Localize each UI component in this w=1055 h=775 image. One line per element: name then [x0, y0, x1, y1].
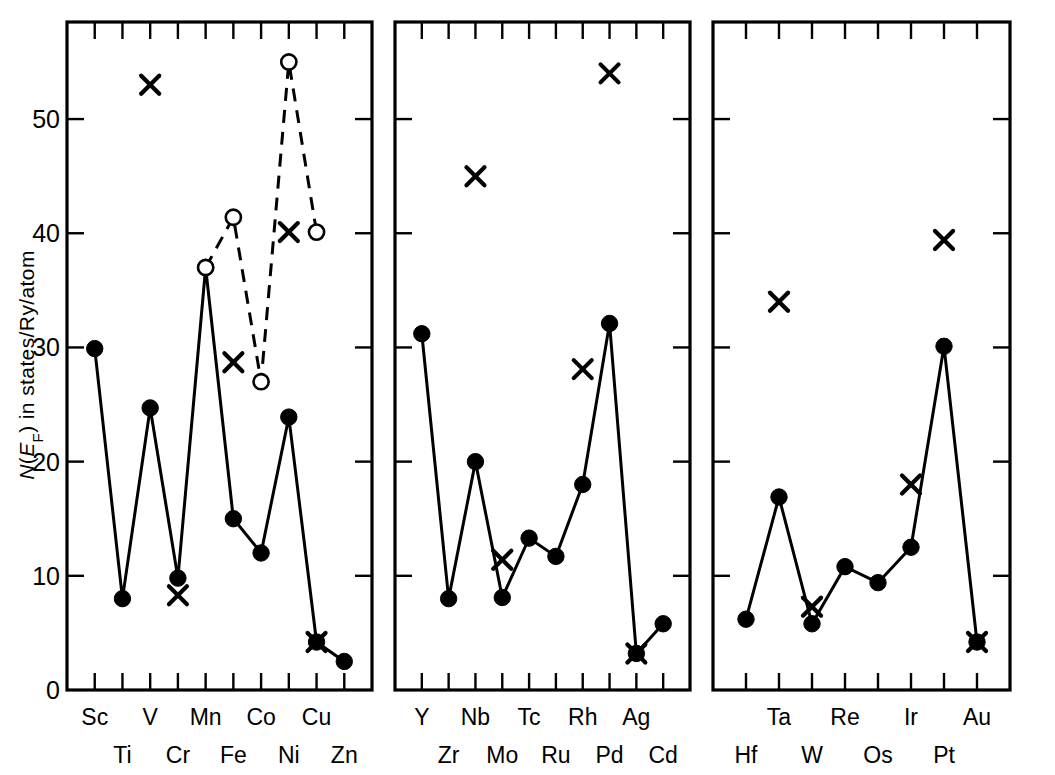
x-tick-label-Ir: Ir	[904, 704, 918, 730]
panel-frame	[395, 22, 690, 690]
data-point-cross[interactable]	[280, 223, 298, 241]
x-tick-label-Ta: Ta	[767, 704, 792, 730]
x-tick-label-Ti: Ti	[113, 742, 131, 768]
x-tick-label-V: V	[143, 704, 159, 730]
y-tick-label: 20	[32, 448, 60, 476]
data-point-cross[interactable]	[935, 231, 953, 249]
x-tick-label-Os: Os	[863, 742, 892, 768]
y-label-paren-close: )	[15, 425, 38, 432]
x-tick-label-Cd: Cd	[648, 742, 677, 768]
x-tick-label-Co: Co	[246, 704, 275, 730]
data-point-cross[interactable]	[574, 360, 592, 378]
x-tick-label-Fe: Fe	[220, 742, 247, 768]
series-line-filled-circle-solid-line	[95, 268, 345, 662]
data-point-filled-circle[interactable]	[903, 539, 919, 555]
data-point-filled-circle[interactable]	[114, 590, 130, 606]
y-tick-label: 30	[32, 333, 60, 361]
x-tick-label-Ag: Ag	[622, 704, 650, 730]
data-point-filled-circle[interactable]	[771, 489, 787, 505]
y-tick-label: 10	[32, 562, 60, 590]
y-tick-label: 0	[46, 676, 60, 704]
y-tick-label: 40	[32, 219, 60, 247]
data-point-open-circle[interactable]	[281, 54, 296, 69]
series-line-open-circle-dashed-line	[206, 62, 317, 382]
x-tick-label-Pt: Pt	[933, 742, 955, 768]
data-point-cross[interactable]	[803, 598, 821, 616]
x-tick-label-Cr: Cr	[166, 742, 191, 768]
x-tick-label-Zr: Zr	[438, 742, 460, 768]
data-point-filled-circle[interactable]	[414, 326, 430, 342]
x-tick-label-Cu: Cu	[302, 704, 331, 730]
data-point-filled-circle[interactable]	[521, 530, 537, 546]
x-tick-label-Ru: Ru	[541, 742, 570, 768]
data-point-filled-circle[interactable]	[467, 453, 483, 469]
x-tick-label-Nb: Nb	[461, 704, 490, 730]
panel-5d-transition-metals: TaReIrAuHfWOsPt	[713, 22, 1010, 768]
nef-transition-metal-chart: N(EF) in states/Ry/atom01020304050ScVMnC…	[0, 0, 1055, 775]
panel-frame	[67, 22, 372, 690]
data-point-cross[interactable]	[902, 475, 920, 493]
figure-root: N(EF) in states/Ry/atom01020304050ScVMnC…	[0, 0, 1055, 775]
data-point-open-circle[interactable]	[253, 374, 268, 389]
x-tick-label-Re: Re	[830, 704, 859, 730]
data-point-open-circle[interactable]	[309, 225, 324, 240]
x-tick-label-Mn: Mn	[190, 704, 222, 730]
data-point-filled-circle[interactable]	[655, 616, 671, 632]
x-tick-label-W: W	[801, 742, 823, 768]
panel-4d-transition-metals: YNbTcRhAgZrMoRuPdCd	[395, 22, 690, 768]
data-point-filled-circle[interactable]	[336, 653, 352, 669]
x-tick-label-Y: Y	[414, 704, 429, 730]
data-point-filled-circle[interactable]	[170, 570, 186, 586]
x-tick-label-Au: Au	[963, 704, 991, 730]
data-point-cross[interactable]	[141, 76, 159, 94]
data-point-filled-circle[interactable]	[142, 400, 158, 416]
x-tick-label-Pd: Pd	[595, 742, 623, 768]
data-point-cross[interactable]	[601, 64, 619, 82]
data-point-filled-circle[interactable]	[601, 315, 617, 331]
x-tick-label-Tc: Tc	[518, 704, 541, 730]
data-point-cross[interactable]	[770, 293, 788, 311]
data-point-filled-circle[interactable]	[738, 611, 754, 627]
x-tick-label-Ni: Ni	[278, 742, 300, 768]
y-axis-label-text: N(EF) in states/Ry/atom	[15, 250, 46, 480]
data-point-cross[interactable]	[169, 586, 187, 604]
data-point-filled-circle[interactable]	[804, 616, 820, 632]
data-point-filled-circle[interactable]	[225, 511, 241, 527]
data-point-filled-circle[interactable]	[440, 590, 456, 606]
data-point-filled-circle[interactable]	[936, 338, 952, 354]
data-point-filled-circle[interactable]	[548, 548, 564, 564]
y-label-subscript-f: F	[29, 433, 46, 443]
data-point-filled-circle[interactable]	[494, 589, 510, 605]
data-point-filled-circle[interactable]	[87, 340, 103, 356]
data-point-filled-circle[interactable]	[253, 545, 269, 561]
data-point-open-circle[interactable]	[198, 260, 213, 275]
data-point-open-circle[interactable]	[226, 210, 241, 225]
data-point-filled-circle[interactable]	[837, 558, 853, 574]
x-tick-label-Sc: Sc	[81, 704, 108, 730]
x-tick-label-Zn: Zn	[331, 742, 358, 768]
data-point-filled-circle[interactable]	[575, 476, 591, 492]
panel-3d-transition-metals: ScVMnCoCuTiCrFeNiZn	[67, 22, 372, 768]
x-tick-label-Mo: Mo	[486, 742, 518, 768]
data-point-filled-circle[interactable]	[870, 574, 886, 590]
data-point-filled-circle[interactable]	[281, 409, 297, 425]
data-point-cross[interactable]	[466, 167, 484, 185]
panel-frame	[713, 22, 1010, 690]
y-axis-label: N(EF) in states/Ry/atom	[15, 250, 46, 480]
x-tick-label-Rh: Rh	[568, 704, 597, 730]
data-point-cross[interactable]	[224, 353, 242, 371]
series-line-filled-circle-solid-line	[422, 323, 663, 653]
x-tick-label-Hf: Hf	[735, 742, 759, 768]
y-tick-label: 50	[32, 105, 60, 133]
